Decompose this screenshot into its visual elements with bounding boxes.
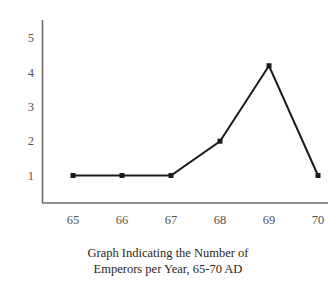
x-tick-label: 65 bbox=[67, 214, 80, 227]
data-point-marker bbox=[218, 139, 223, 144]
chart-caption: Graph Indicating the Number of Emperors … bbox=[0, 245, 336, 277]
y-tick-label: 5 bbox=[28, 32, 34, 45]
data-point-marker bbox=[267, 63, 272, 68]
caption-line-1: Graph Indicating the Number of bbox=[0, 245, 336, 261]
x-tick-label: 69 bbox=[263, 214, 276, 227]
data-point-marker bbox=[169, 173, 174, 178]
y-tick-label: 1 bbox=[28, 169, 34, 182]
data-point-marker bbox=[120, 173, 125, 178]
y-tick-label: 3 bbox=[28, 101, 34, 114]
x-tick-label: 68 bbox=[214, 214, 227, 227]
data-point-marker bbox=[316, 173, 321, 178]
data-point-marker bbox=[71, 173, 76, 178]
caption-line-2: Emperors per Year, 65-70 AD bbox=[0, 261, 336, 277]
y-tick-label: 4 bbox=[28, 66, 34, 79]
chart-figure: 54321 656667686970 Graph Indicating the … bbox=[0, 0, 336, 293]
x-tick-label: 66 bbox=[116, 214, 129, 227]
x-tick-label: 67 bbox=[165, 214, 178, 227]
y-tick-label: 2 bbox=[28, 135, 34, 148]
x-tick-label: 70 bbox=[312, 214, 325, 227]
